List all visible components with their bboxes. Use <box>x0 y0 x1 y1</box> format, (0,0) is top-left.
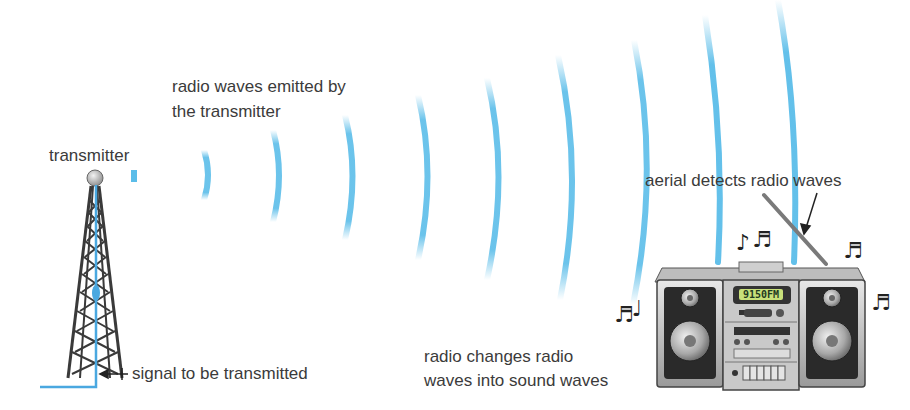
music-note-icon: ♬ <box>614 302 634 327</box>
waves-emitted-label-line1: radio waves emitted by <box>172 76 346 98</box>
radio-transmission-diagram: 9150FM ♬ ♩ ♪ ♬ ♬ ♬ transmitter radio wav… <box>0 0 910 410</box>
lcd-text: 9150FM <box>743 289 779 300</box>
radio-waves <box>131 0 795 305</box>
transmitter-ball <box>87 170 103 186</box>
music-note-icon: ♪ <box>736 230 750 255</box>
music-note-icon: ♬ <box>843 238 863 263</box>
transmitter-label: transmitter <box>49 145 129 167</box>
music-note-icon: ♬ <box>871 290 891 315</box>
radio-changes-label-line1: radio changes radio <box>424 346 573 368</box>
signal-label: signal to be transmitted <box>132 363 308 385</box>
music-note-icon: ♩ <box>632 296 642 321</box>
radio-changes-label-line2: waves into sound waves <box>424 370 608 392</box>
wave-8 <box>705 15 720 262</box>
wave-6 <box>558 55 572 300</box>
aerial-label: aerial detects radio waves <box>645 170 842 192</box>
wave-3 <box>345 115 353 240</box>
waves-emitted-label-line2: the transmitter <box>172 101 281 123</box>
wave-5 <box>487 78 499 280</box>
signal-arrow <box>100 368 128 380</box>
music-note-icon: ♬ <box>752 227 772 252</box>
wave-1 <box>204 150 208 200</box>
signal-pulse <box>92 285 100 301</box>
wave-4 <box>418 95 428 260</box>
wave-0 <box>131 170 137 182</box>
aerial-arrow <box>801 193 817 234</box>
wave-2 <box>273 130 279 222</box>
